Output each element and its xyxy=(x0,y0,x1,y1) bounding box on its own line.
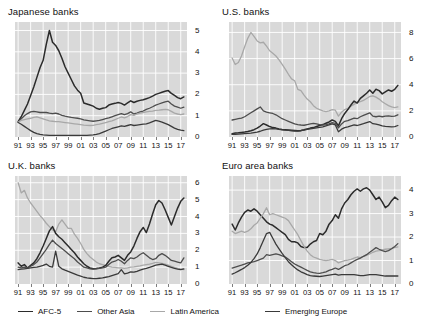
legend-swatch-latin-america xyxy=(150,311,165,312)
x-tick-mark xyxy=(320,284,321,287)
x-tick-label: 15 xyxy=(164,142,172,150)
x-tick-label: 17 xyxy=(390,142,398,150)
x-tick-label: 13 xyxy=(151,142,159,150)
y-tick-label: 4 xyxy=(195,48,199,56)
x-tick-mark xyxy=(395,137,396,140)
x-tick-mark xyxy=(106,284,107,287)
x-axis-labels: 9193959799010305070911131517 xyxy=(229,142,401,152)
x-tick-mark xyxy=(18,284,19,287)
x-tick-label: 03 xyxy=(303,142,311,150)
legend-swatch-other-asia xyxy=(77,311,92,312)
plot-area xyxy=(15,22,187,137)
x-tick-mark xyxy=(307,284,308,287)
x-tick-mark xyxy=(270,137,271,140)
series-canvas xyxy=(15,176,187,284)
legend-swatch-emerging-europe xyxy=(265,311,280,312)
x-tick-label: 93 xyxy=(240,289,248,297)
x-tick-label: 11 xyxy=(353,289,361,297)
x-tick-mark xyxy=(307,137,308,140)
x-tick-label: 07 xyxy=(114,142,122,150)
x-tick-label: 07 xyxy=(328,142,336,150)
y-axis-labels: 01234 xyxy=(403,176,425,284)
y-tick-label: 2 xyxy=(409,233,413,241)
x-tick-mark xyxy=(118,284,119,287)
plot-wrapper: 0123456 9193959799010305070911131517 xyxy=(8,176,213,300)
panel-uk-banks: U.K. banks 0123456 919395979901030507091… xyxy=(8,160,213,300)
x-tick-mark xyxy=(370,284,371,287)
y-tick-label: 0 xyxy=(409,280,413,288)
plot-area xyxy=(15,176,187,284)
y-tick-label: 2 xyxy=(195,246,199,254)
plot-wrapper: 01234 9193959799010305070911131517 xyxy=(222,176,427,300)
plot-area xyxy=(229,176,401,284)
panel-title: Euro area banks xyxy=(222,160,427,171)
x-tick-mark xyxy=(332,284,333,287)
x-tick-mark xyxy=(131,137,132,140)
x-tick-label: 05 xyxy=(101,289,109,297)
x-tick-mark xyxy=(81,137,82,140)
x-tick-mark xyxy=(106,137,107,140)
x-tick-label: 97 xyxy=(51,289,59,297)
x-tick-mark xyxy=(168,284,169,287)
plot-wrapper: 012345 9193959799010305070911131517 xyxy=(8,22,213,154)
x-tick-label: 17 xyxy=(176,289,184,297)
y-tick-label: 1 xyxy=(409,257,413,265)
x-tick-label: 13 xyxy=(365,289,373,297)
y-tick-label: 8 xyxy=(409,29,413,37)
x-tick-mark xyxy=(345,137,346,140)
x-tick-label: 07 xyxy=(114,289,122,297)
x-tick-mark xyxy=(232,137,233,140)
legend-item-afc5: AFC-5 xyxy=(18,307,61,316)
x-tick-label: 95 xyxy=(39,289,47,297)
x-tick-mark xyxy=(320,137,321,140)
legend-label: Latin America xyxy=(170,307,218,316)
x-tick-mark xyxy=(181,284,182,287)
y-tick-label: 3 xyxy=(195,229,199,237)
x-tick-label: 01 xyxy=(76,142,84,150)
y-axis-labels: 0123456 xyxy=(189,176,211,284)
x-tick-label: 15 xyxy=(378,289,386,297)
x-tick-label: 91 xyxy=(14,142,22,150)
x-tick-mark xyxy=(31,284,32,287)
x-tick-mark xyxy=(382,284,383,287)
y-tick-label: 4 xyxy=(409,81,413,89)
series-canvas xyxy=(15,22,187,137)
y-tick-label: 6 xyxy=(195,179,199,187)
x-tick-mark xyxy=(168,137,169,140)
x-tick-mark xyxy=(270,284,271,287)
x-tick-mark xyxy=(68,137,69,140)
x-tick-label: 15 xyxy=(164,289,172,297)
series-canvas xyxy=(229,176,401,284)
y-tick-label: 3 xyxy=(409,210,413,218)
legend-label: Other Asia xyxy=(97,307,134,316)
x-tick-mark xyxy=(93,137,94,140)
x-tick-mark xyxy=(56,137,57,140)
panel-title: U.S. banks xyxy=(222,6,427,17)
x-tick-label: 95 xyxy=(253,142,261,150)
x-tick-mark xyxy=(245,284,246,287)
legend: AFC-5 Other Asia Latin America Emerging … xyxy=(18,304,418,318)
panel-us-banks: U.S. banks 02468 91939597990103050709111… xyxy=(222,6,427,154)
legend-item-emerging-europe: Emerging Europe xyxy=(265,307,347,316)
x-tick-label: 15 xyxy=(378,142,386,150)
x-tick-label: 05 xyxy=(315,142,323,150)
x-tick-label: 17 xyxy=(390,289,398,297)
series-canvas xyxy=(229,22,401,137)
x-tick-label: 13 xyxy=(151,289,159,297)
x-tick-label: 11 xyxy=(139,289,147,297)
x-tick-label: 09 xyxy=(126,142,134,150)
y-tick-label: 4 xyxy=(195,213,199,221)
x-tick-label: 01 xyxy=(76,289,84,297)
y-tick-label: 4 xyxy=(409,186,413,194)
x-axis-labels: 9193959799010305070911131517 xyxy=(229,289,401,299)
panel-title: Japanese banks xyxy=(8,6,213,17)
x-tick-label: 03 xyxy=(89,142,97,150)
x-tick-mark xyxy=(295,137,296,140)
legend-label: AFC-5 xyxy=(38,307,61,316)
y-tick-label: 2 xyxy=(195,90,199,98)
panel-title: U.K. banks xyxy=(8,160,213,171)
x-tick-label: 93 xyxy=(26,142,34,150)
x-tick-mark xyxy=(345,284,346,287)
x-tick-mark xyxy=(56,284,57,287)
x-tick-mark xyxy=(131,284,132,287)
